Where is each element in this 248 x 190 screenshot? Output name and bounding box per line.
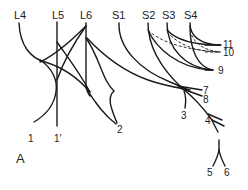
nerve-to-3 <box>184 91 186 108</box>
root-label-s4: S4 <box>184 9 197 21</box>
branch-label-3: 3 <box>181 110 187 121</box>
branch-label-6: 6 <box>224 167 230 178</box>
nerve-l4-to-1 <box>34 60 56 122</box>
nerve-plexus-diagram: L4 L5 L6 S1 S2 S3 S4 1 1′ 2 3 <box>0 0 248 190</box>
nerve-s1 <box>119 23 188 90</box>
branch-label-8: 8 <box>203 94 209 105</box>
root-label-s2: S2 <box>142 9 155 21</box>
nerve-to-6 <box>219 150 225 166</box>
panel-label: A <box>16 151 25 166</box>
branch-label-11: 11 <box>223 39 234 50</box>
nerve-s3-to-11 <box>167 30 220 45</box>
branch-label-4: 4 <box>205 115 211 126</box>
root-label-l6: L6 <box>80 9 92 21</box>
nerve-to-5 <box>213 150 219 166</box>
nerve-s2-main <box>148 23 182 88</box>
branch-label-9: 9 <box>218 65 224 76</box>
root-label-s1: S1 <box>112 9 125 21</box>
nerve-l6-to-l5 <box>57 26 86 80</box>
branch-label-2: 2 <box>117 124 123 135</box>
nerve-l6-sweep <box>87 38 190 90</box>
root-label-l5: L5 <box>52 9 64 21</box>
branch-label-5: 5 <box>207 167 213 178</box>
nerve-l6-cross <box>40 26 86 62</box>
root-label-l4: L4 <box>14 9 26 21</box>
root-label-s3: S3 <box>162 9 175 21</box>
branch-label-1: 1 <box>28 133 34 144</box>
nerve-s4-to-11 <box>190 23 220 45</box>
branch-label-1-prime: 1′ <box>54 133 62 144</box>
nerve-l6-vertical <box>86 23 90 96</box>
